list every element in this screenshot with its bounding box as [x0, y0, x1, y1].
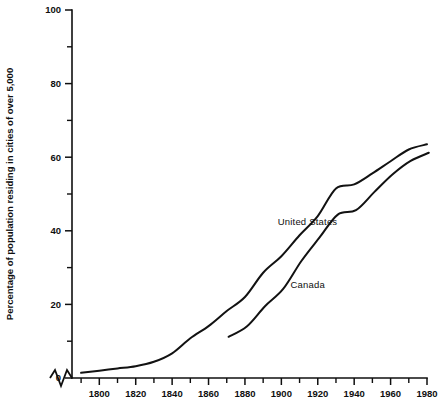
y-axis-title: Percentage of population residing in cit… — [4, 68, 15, 320]
x-tick-label: 1800 — [89, 388, 110, 399]
y-tick-label: 20 — [50, 299, 61, 310]
x-tick-label: 1860 — [198, 388, 219, 399]
x-axis: 1800182018401860188019001920194019601980 — [50, 370, 438, 399]
x-tick-label: 1880 — [234, 388, 255, 399]
x-axis-tick-labels: 1800182018401860188019001920194019601980 — [89, 388, 438, 399]
series-line-united-states — [81, 144, 427, 373]
x-tick-label: 1900 — [271, 388, 292, 399]
x-tick-label: 1960 — [380, 388, 401, 399]
series-line-canada — [229, 153, 429, 337]
y-axis-ticks — [65, 10, 72, 378]
y-tick-label: 40 — [50, 225, 61, 236]
plot-area — [81, 144, 429, 373]
series-label-united-states: United States — [278, 216, 338, 227]
x-tick-label: 1980 — [416, 388, 437, 399]
y-tick-label: 60 — [50, 152, 61, 163]
series-label-canada: Canada — [291, 279, 326, 290]
x-tick-label: 1820 — [125, 388, 146, 399]
y-tick-label: 80 — [50, 78, 61, 89]
x-tick-label: 1940 — [344, 388, 365, 399]
x-axis-ticks — [81, 378, 427, 385]
line-chart: 020406080100 180018201840186018801900192… — [0, 0, 442, 411]
y-axis-tick-labels: 020406080100 — [45, 4, 61, 383]
x-tick-label: 1920 — [307, 388, 328, 399]
x-tick-label: 1840 — [162, 388, 183, 399]
y-tick-label: 100 — [45, 4, 61, 15]
y-axis: 020406080100 — [45, 4, 72, 383]
chart-container: 020406080100 180018201840186018801900192… — [0, 0, 442, 411]
